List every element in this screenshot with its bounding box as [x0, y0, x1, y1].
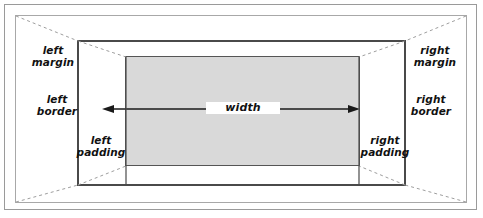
label-right-border: right border — [400, 94, 462, 117]
label-right-margin: right margin — [404, 45, 466, 68]
label-width: width — [206, 102, 280, 114]
label-left-border: left border — [26, 94, 88, 117]
width-arrow-head-left — [102, 105, 114, 113]
label-right-padding: right padding — [354, 135, 416, 158]
box-model-diagram: left margin left border left padding rig… — [0, 0, 483, 218]
label-left-padding: left padding — [70, 135, 132, 158]
width-arrow-head-right — [348, 105, 360, 113]
label-left-margin: left margin — [22, 45, 84, 68]
